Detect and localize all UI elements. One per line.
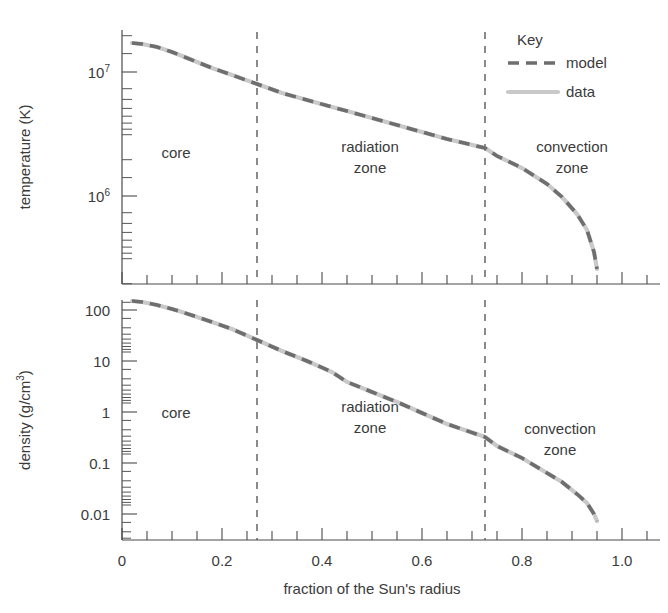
- x-axis-labels: 0 0.2 0.4 0.6 0.8 1.0: [118, 552, 633, 569]
- xtick-1.0: 1.0: [612, 552, 633, 569]
- zone-label-core-top: core: [161, 144, 190, 161]
- temperature-axis-title: temperature (K): [16, 104, 33, 209]
- temperature-ytick-10e6: 106: [88, 187, 111, 205]
- zone-label-core-bottom: core: [161, 404, 190, 421]
- zone-label-convection-top-line1: convection: [536, 138, 608, 155]
- zone-label-convection-bottom-line1: convection: [524, 420, 596, 437]
- temperature-x-ticks: [122, 272, 647, 284]
- zone-label-radiation-top-line2: zone: [354, 159, 387, 176]
- xtick-0.4: 0.4: [312, 552, 333, 569]
- legend: Key model data: [508, 31, 607, 100]
- zone-label-convection-bottom-line2: zone: [544, 441, 577, 458]
- density-x-ticks: [122, 528, 647, 540]
- legend-data-label: data: [566, 83, 596, 100]
- density-panel: 100 10 1 0.1 0.01 density (g/cm3) core r…: [15, 300, 660, 540]
- solar-structure-figure: 107 106 temperature (K) core radiation z…: [0, 0, 668, 613]
- density-ytick-10: 10: [93, 353, 110, 370]
- xtick-0.6: 0.6: [412, 552, 433, 569]
- xtick-0: 0: [118, 552, 126, 569]
- zone-label-convection-top-line2: zone: [556, 159, 589, 176]
- density-y-minor-ticks: [122, 302, 131, 538]
- density-ytick-1: 1: [102, 404, 110, 421]
- temperature-ytick-10e7: 107: [88, 63, 111, 81]
- temperature-data-curve: [132, 43, 597, 269]
- density-ytick-0.1: 0.1: [89, 455, 110, 472]
- legend-title: Key: [517, 31, 543, 48]
- temperature-panel: 107 106 temperature (K) core radiation z…: [16, 30, 660, 284]
- temperature-y-minor-ticks: [122, 36, 132, 284]
- xtick-0.2: 0.2: [212, 552, 233, 569]
- temperature-model-curve: [132, 43, 597, 269]
- xtick-0.8: 0.8: [512, 552, 533, 569]
- density-axis-title: density (g/cm3): [15, 370, 33, 470]
- x-axis-title: fraction of the Sun's radius: [283, 580, 460, 597]
- density-ytick-0.01: 0.01: [81, 506, 110, 523]
- density-y-major-ticks: [122, 310, 137, 514]
- legend-model-label: model: [566, 54, 607, 71]
- density-ytick-100: 100: [85, 302, 110, 319]
- zone-label-radiation-top-line1: radiation: [341, 138, 399, 155]
- zone-label-radiation-bottom-line2: zone: [354, 419, 387, 436]
- chart-svg: 107 106 temperature (K) core radiation z…: [0, 0, 668, 613]
